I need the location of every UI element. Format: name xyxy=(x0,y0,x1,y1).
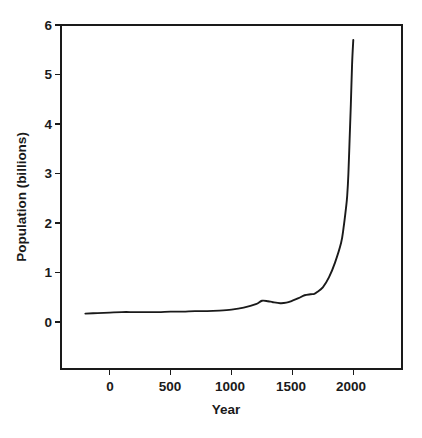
y-tick-label-0: 0 xyxy=(44,315,52,330)
y-tick-label-1: 1 xyxy=(44,265,52,280)
y-axis-title: Population (billions) xyxy=(14,132,29,262)
x-tick-label-2000: 2000 xyxy=(336,379,366,394)
y-tick-label-4: 4 xyxy=(44,117,52,132)
x-tick-label-1000: 1000 xyxy=(215,379,245,394)
chart-background xyxy=(0,0,422,438)
y-tick-label-2: 2 xyxy=(44,216,52,231)
x-tick-label-500: 500 xyxy=(159,379,182,394)
chart-canvas: 0 1 2 3 4 5 6 0 500 1000 1500 2000 Popul… xyxy=(0,0,422,438)
x-tick-label-0: 0 xyxy=(106,379,114,394)
y-tick-label-3: 3 xyxy=(44,166,52,181)
x-tick-label-1500: 1500 xyxy=(276,379,306,394)
y-tick-label-6: 6 xyxy=(44,18,52,33)
x-axis-title: Year xyxy=(212,402,241,417)
y-tick-label-5: 5 xyxy=(44,67,52,82)
population-chart: 0 1 2 3 4 5 6 0 500 1000 1500 2000 Popul… xyxy=(0,0,422,438)
